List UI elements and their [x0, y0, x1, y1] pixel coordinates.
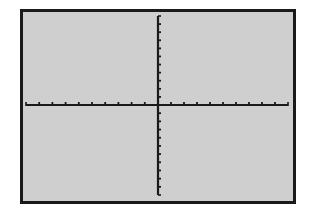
calculator-graph-figure — [0, 0, 312, 213]
coordinate-axes — [0, 0, 312, 213]
axes-group — [26, 16, 288, 195]
